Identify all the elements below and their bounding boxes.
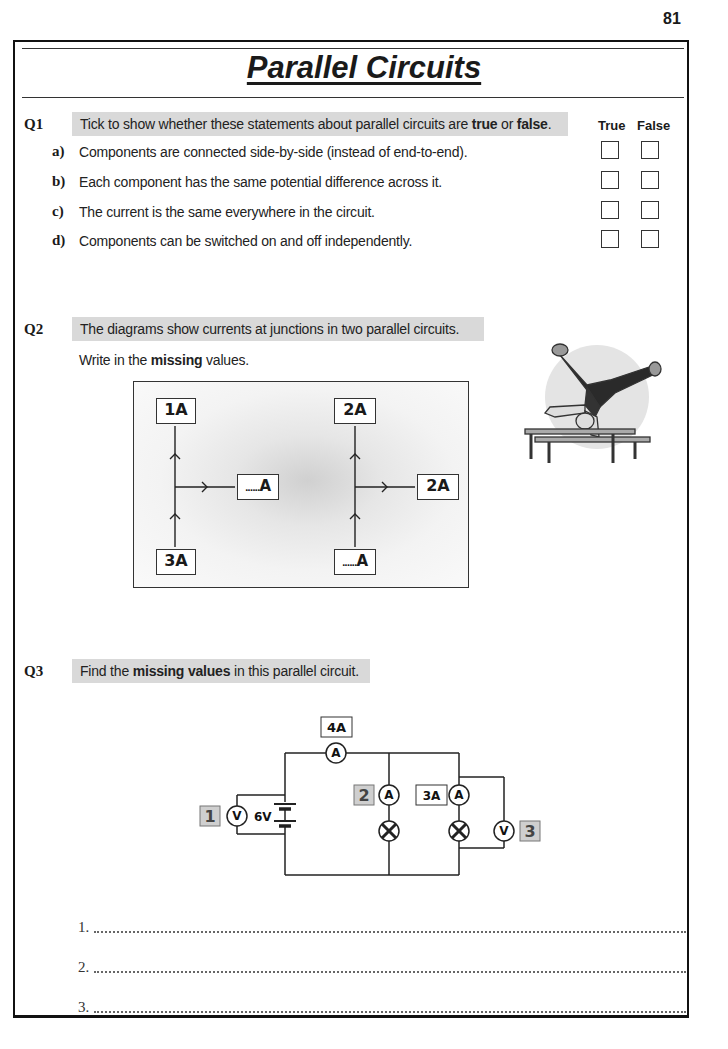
- item-text: Components are connected side-by-side (i…: [79, 144, 467, 160]
- q3-instruction-end: in this parallel circuit.: [230, 663, 359, 679]
- item-text: Each component has the same potential di…: [79, 174, 442, 190]
- q1-instruction: Tick to show whether these statements ab…: [72, 112, 568, 136]
- q3-instruction-text: Find the: [80, 663, 133, 679]
- bulb-voltmeter-icon: V: [499, 824, 509, 838]
- unit: A: [356, 552, 368, 570]
- branch2-current-label: 3A: [423, 789, 441, 803]
- q1-number: Q1: [24, 116, 43, 133]
- gymnast-illustration: [515, 325, 670, 465]
- item-letter: c): [52, 203, 64, 220]
- item-letter: d): [52, 232, 65, 249]
- right-missing-current-field[interactable]: ......A: [334, 549, 376, 575]
- checkbox-false-b[interactable]: [641, 171, 659, 189]
- q2-sub-text: Write in the: [79, 352, 151, 368]
- q1-instruction-or: or: [497, 116, 516, 132]
- battery-voltage-label: 6V: [254, 810, 272, 824]
- junction-diagram: 1A ......A 3A 2A 2A ......A: [133, 381, 469, 588]
- page-number: 81: [663, 10, 681, 28]
- lamp-icon: [379, 821, 469, 841]
- parallel-circuit-diagram: 6V A A A V V 4A 3A: [190, 705, 550, 885]
- q2-sub-bold: missing: [151, 352, 203, 368]
- answer-label: 1.: [78, 919, 89, 936]
- checkbox-true-b[interactable]: [601, 171, 619, 189]
- item-text: The current is the same everywhere in th…: [79, 204, 375, 220]
- branch2-ammeter-icon: A: [454, 788, 464, 802]
- item-text: Components can be switched on and off in…: [79, 233, 412, 249]
- left-bottom-current: 3A: [156, 549, 196, 575]
- q3-number: Q3: [24, 663, 43, 680]
- unknown-2-marker: 2: [358, 786, 369, 805]
- item-letter: b): [52, 173, 65, 190]
- right-branch-current: 2A: [417, 474, 459, 500]
- false-column-header: False: [637, 118, 670, 133]
- unknown-3-marker: 3: [524, 822, 535, 841]
- q2-sub-end: values.: [202, 352, 249, 368]
- q2-subinstruction: Write in the missing values.: [79, 352, 249, 368]
- battery-voltmeter-icon: V: [232, 809, 242, 823]
- checkbox-false-c[interactable]: [641, 201, 659, 219]
- main-ammeter-icon: A: [331, 746, 341, 760]
- blank-dots: ......: [342, 558, 357, 568]
- unit: A: [259, 477, 271, 495]
- answer-label: 2.: [78, 959, 89, 976]
- blank-dots: ......: [245, 483, 260, 493]
- answer-dots: [94, 931, 686, 933]
- left-missing-current-field[interactable]: ......A: [237, 474, 279, 500]
- q1-instruction-text: Tick to show whether these statements ab…: [80, 116, 472, 132]
- page-title: Parallel Circuits: [0, 50, 728, 86]
- main-current-label: 4A: [327, 720, 346, 735]
- true-column-header: True: [598, 118, 625, 133]
- right-top-current: 2A: [334, 398, 376, 424]
- q3-instruction: Find the missing values in this parallel…: [72, 659, 370, 683]
- checkbox-true-c[interactable]: [601, 201, 619, 219]
- answer-label: 3.: [78, 999, 89, 1016]
- q2-number: Q2: [24, 321, 43, 338]
- checkbox-true-a[interactable]: [601, 141, 619, 159]
- answer-dots: [94, 971, 686, 973]
- checkbox-false-a[interactable]: [641, 141, 659, 159]
- q1-instruction-true: true: [472, 116, 498, 132]
- item-letter: a): [52, 143, 65, 160]
- q2-instruction: The diagrams show currents at junctions …: [72, 317, 484, 341]
- checkbox-false-d[interactable]: [641, 230, 659, 248]
- q1-instruction-end: .: [548, 116, 552, 132]
- left-top-current: 1A: [156, 398, 196, 424]
- title-rule-bottom: [22, 97, 684, 98]
- answer-dots: [94, 1011, 686, 1013]
- checkbox-true-d[interactable]: [601, 230, 619, 248]
- branch1-ammeter-icon: A: [384, 788, 394, 802]
- unknown-1-marker: 1: [204, 807, 215, 826]
- q3-instruction-bold: missing values: [133, 663, 231, 679]
- q1-instruction-false: false: [517, 116, 548, 132]
- title-rule-top: [22, 48, 684, 49]
